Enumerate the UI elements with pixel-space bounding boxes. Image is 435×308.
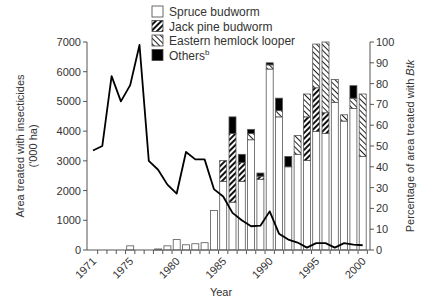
bar-segment <box>350 98 357 108</box>
bar-segment <box>313 131 320 250</box>
x-tick-label: 1975 <box>110 255 136 281</box>
bar-segment <box>350 86 357 98</box>
y2-tick-label: 0 <box>376 244 382 256</box>
legend-label: Othersb <box>169 48 210 63</box>
bar-segment <box>257 179 264 250</box>
bar-segment <box>201 243 208 250</box>
chart: 0100020003000400050006000700001020304050… <box>0 0 435 308</box>
y2-tick-label: 70 <box>376 98 388 110</box>
x-tick-label: 1995 <box>296 255 322 281</box>
y-tick-label: 1000 <box>57 214 81 226</box>
bar-segment <box>248 134 255 140</box>
y-tick-label: 3000 <box>57 155 81 167</box>
bar-segment <box>127 246 134 250</box>
y-tick-label: 2000 <box>57 185 81 197</box>
y-axis-label-line1: Area treated with insecticides <box>14 74 26 218</box>
y2-tick-label: 80 <box>376 78 388 90</box>
bar-segment <box>238 181 245 250</box>
bar-segment <box>183 245 190 250</box>
legend-swatch <box>152 50 163 61</box>
y-tick-label: 4000 <box>57 125 81 137</box>
legend-swatch <box>152 6 163 17</box>
bar-segment <box>266 65 273 69</box>
bar-segment <box>313 88 320 132</box>
bar-segment <box>285 156 292 166</box>
bar-segment <box>238 154 245 162</box>
y2-axis-label: Percentage of area treated with Btk <box>404 59 416 232</box>
x-tick-label: 1980 <box>156 255 182 281</box>
legend-label: Jack pine budworm <box>169 20 272 34</box>
bar-segment <box>313 44 320 88</box>
x-tick-label: 1990 <box>249 255 275 281</box>
bar-segment <box>173 240 180 250</box>
y2-tick-label: 100 <box>376 36 394 48</box>
y2-tick-label: 60 <box>376 119 388 131</box>
x-tick-label: 2000 <box>342 255 368 281</box>
y-tick-label: 7000 <box>57 36 81 48</box>
bar-segment <box>164 246 171 250</box>
bar-segment <box>266 69 273 250</box>
legend-label: Spruce budworm <box>169 5 260 19</box>
legend-swatch <box>152 35 163 46</box>
y2-tick-label: 90 <box>376 57 388 69</box>
legend: Spruce budwormJack pine budwormEastern h… <box>152 5 295 63</box>
bar-segment <box>257 176 264 179</box>
bar-segment <box>331 79 338 102</box>
bar-segment <box>220 181 227 250</box>
bar-segment <box>341 121 348 250</box>
bar-segment <box>322 113 329 134</box>
bar-series <box>127 42 367 250</box>
bar-segment <box>294 154 301 250</box>
x-axis-label: Year <box>210 286 233 298</box>
bar-segment <box>303 117 310 161</box>
bar-segment <box>248 129 255 133</box>
x-tick-label: 1971 <box>73 255 99 281</box>
bar-segment <box>229 117 236 134</box>
bar-segment <box>266 63 273 65</box>
bar-segment <box>210 210 217 250</box>
legend-superscript: b <box>205 48 210 57</box>
y2-axis-label-italic: Btk <box>404 59 416 75</box>
y-tick-label: 6000 <box>57 66 81 78</box>
bar-segment <box>303 161 310 250</box>
bar-segment <box>192 244 199 250</box>
bar-segment <box>294 136 301 155</box>
y2-tick-label: 30 <box>376 182 388 194</box>
bar-segment <box>359 94 366 156</box>
legend-label: Eastern hemlock looper <box>169 34 295 48</box>
bar-segment <box>257 173 264 176</box>
bar-segment <box>303 94 310 117</box>
y2-tick-label: 10 <box>376 223 388 235</box>
bar-segment <box>220 161 227 182</box>
bar-segment <box>341 115 348 121</box>
y2-tick-label: 20 <box>376 202 388 214</box>
y-axis-label-line2: ('000 ha) <box>27 124 39 167</box>
bar-segment <box>322 42 329 113</box>
bar-segment <box>248 140 255 250</box>
bar-segment <box>276 111 283 117</box>
y2-tick-label: 50 <box>376 140 388 152</box>
bar-segment <box>331 102 338 250</box>
bar-segment <box>229 134 236 203</box>
y-tick-label: 0 <box>75 244 81 256</box>
bar-segment <box>350 109 357 250</box>
x-tick-label: 1985 <box>203 255 229 281</box>
y2-tick-label: 40 <box>376 161 388 173</box>
bar-segment <box>238 163 245 182</box>
bar-segment <box>322 134 329 250</box>
bar-segment <box>359 156 366 250</box>
y-tick-label: 5000 <box>57 95 81 107</box>
bar-segment <box>276 98 283 110</box>
y2-axis-label-text: Percentage of area treated with <box>404 76 416 233</box>
legend-swatch <box>152 21 163 32</box>
